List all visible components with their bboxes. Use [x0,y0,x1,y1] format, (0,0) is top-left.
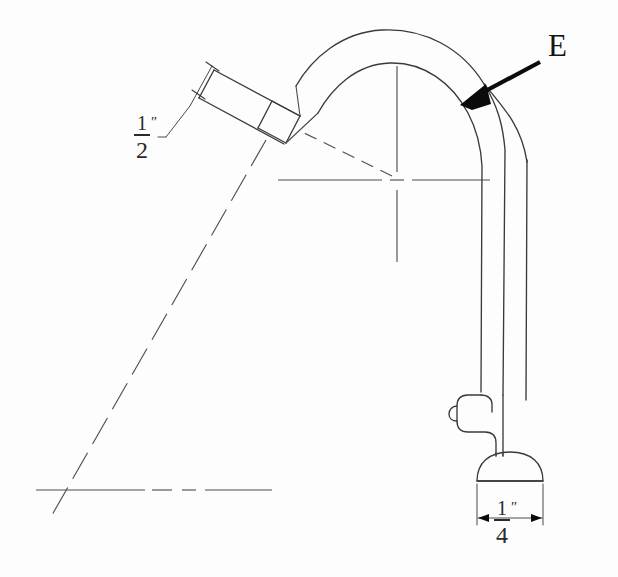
technical-drawing-canvas: E 1 2 ″ 1 4 ″ [0,0,618,577]
callout-label-E: E [548,30,567,61]
nozzle-collar [258,101,272,128]
centerline-diagonal-long [52,140,266,515]
nozzle-collar-body-top [272,101,300,116]
fraction-stack-half: 1 2 [134,113,150,162]
inch-mark-quarter: ″ [511,500,516,515]
fraction-bar-half [134,134,150,136]
dim-line-half-inch [190,66,212,106]
angled-spout-nozzle [199,70,318,144]
nozzle-lower-edge [199,98,284,144]
dimension-spout-half-inch [158,62,219,137]
fraction-denominator-quarter: 4 [494,522,510,547]
tube-right-edge [526,160,527,400]
dimension-label-half-inch: 1 2 ″ [134,113,156,162]
radius-construction-line [300,131,392,176]
dim-arrowhead-right [531,514,542,522]
fraction-stack-quarter: 1 4 [494,498,510,547]
nozzle-collar-body-bottom [258,128,286,143]
handle-top-right-corner [481,395,492,412]
fraction-numerator-quarter: 1 [494,498,510,519]
base-flange [477,452,543,481]
handle-outline [457,395,496,456]
fraction-numerator-half: 1 [134,113,150,134]
base-dome-outline [477,452,543,481]
callout-arrowhead [460,84,491,110]
fraction-denominator-half: 2 [134,137,150,162]
dimension-label-quarter-inch: 1 4 ″ [494,498,516,547]
dim-arrowhead-left [478,514,489,522]
tube-outer-wall [296,30,505,395]
lever-handle [449,395,503,456]
tube-inner-wall [318,63,482,392]
nozzle-collar-outer [286,116,300,143]
nozzle-tip-face [199,70,214,98]
faucet-drawing-svg [0,0,618,577]
handle-inner-left [449,406,457,421]
dim-leader-half-inch [166,106,190,137]
fraction-bar-quarter [494,519,510,521]
dim-tick-upper [206,62,219,71]
elbow-joint-line [296,86,300,116]
inch-mark-half: ″ [151,115,156,130]
elbow-joint-line-inner [286,113,318,143]
